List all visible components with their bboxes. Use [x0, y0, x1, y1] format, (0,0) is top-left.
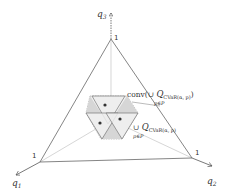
conv-annotation: conv(∪ QCVaR(α, p)) p∈P — [127, 89, 194, 107]
svg-text:p∈P: p∈P — [133, 133, 144, 140]
vertex-left-label: 1 — [32, 152, 36, 160]
simplex-diagram: q3 q1 q2 1 1 1 conv(∪ QCVaR(α, p)) p∈P ∪… — [0, 0, 231, 196]
vertex-top-label: 1 — [114, 34, 118, 42]
q3-label: q3 — [97, 9, 107, 20]
q1-label: q1 — [12, 178, 22, 189]
q1-axis — [16, 162, 40, 175]
vertex-right-label: 1 — [195, 149, 199, 157]
q2-axis — [192, 158, 212, 166]
svg-text:p∈P: p∈P — [154, 100, 165, 107]
q2-label: q2 — [207, 176, 217, 187]
